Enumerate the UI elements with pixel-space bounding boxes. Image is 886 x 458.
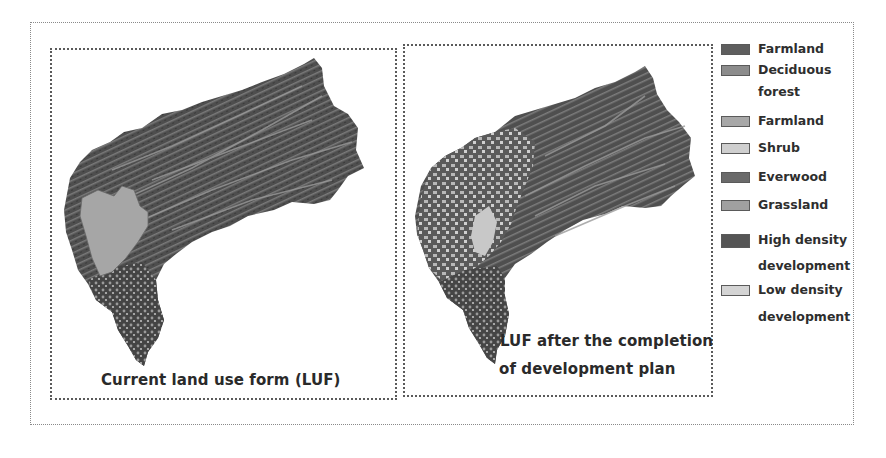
legend-swatch [721, 285, 750, 296]
legend-label-cont: development [758, 310, 850, 324]
caption-after-plan-line-2: of development plan [499, 360, 676, 378]
legend-label: Deciduous [758, 63, 831, 77]
legend-swatch [721, 200, 750, 211]
legend-label: Everwood [758, 170, 827, 184]
legend-swatch [721, 234, 750, 248]
legend-label: High density [758, 233, 847, 247]
legend-label: Farmland [758, 42, 824, 56]
caption-after-plan-line-1: LUF after the completion [500, 332, 713, 350]
legend-swatch [721, 116, 750, 127]
southern-mixed-zone [439, 266, 509, 364]
legend-swatch [721, 65, 750, 76]
panel-after-plan-luf: LUF after the completion of development … [403, 44, 713, 397]
southern-mixed-zone [88, 262, 164, 366]
legend-swatch [721, 172, 750, 183]
legend-label: Farmland [758, 114, 824, 128]
legend-label: Shrub [758, 141, 800, 155]
legend-label: Low density [758, 283, 843, 297]
caption-current-luf: Current land use form (LUF) [101, 371, 341, 389]
map-current-luf [52, 50, 395, 398]
legend-label-cont: development [758, 259, 850, 273]
legend-swatch [721, 44, 750, 55]
legend-label-cont: forest [758, 85, 800, 99]
legend-label: Grassland [758, 198, 828, 212]
panel-current-luf: Current land use form (LUF) [50, 48, 397, 400]
legend-swatch [721, 143, 750, 154]
